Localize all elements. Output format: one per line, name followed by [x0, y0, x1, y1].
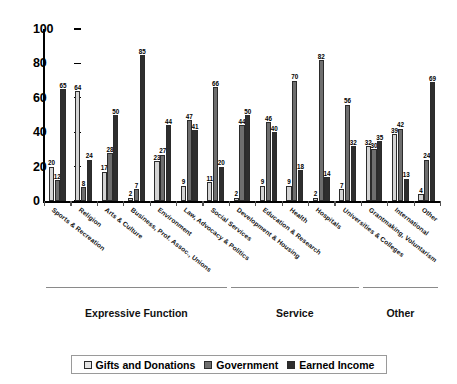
bar: 2: [313, 198, 318, 201]
bar-group: 24450: [234, 29, 251, 201]
bar: 50: [245, 115, 250, 201]
bar-chart: 020406080100 201265648241728502785232744…: [0, 0, 457, 384]
bar: 65: [60, 89, 65, 201]
light-gray-swatch-icon: [84, 361, 92, 369]
bar-value-label: 42: [397, 122, 404, 128]
bar-value-label: 41: [191, 124, 198, 130]
bar-value-label: 82: [318, 54, 325, 60]
bar: 85: [140, 55, 145, 201]
bar-value-label: 2: [314, 191, 318, 197]
bar-value-label: 20: [48, 160, 55, 166]
bar: 82: [319, 60, 324, 201]
legend-item-earned-income: Earned Income: [287, 359, 374, 371]
bar: 70: [292, 81, 297, 201]
bar-group: 94640: [260, 29, 277, 201]
bar-value-label: 8: [82, 181, 86, 187]
bar: 11: [207, 182, 212, 201]
bar-group: 394213: [392, 29, 409, 201]
legend-label: Government: [216, 359, 278, 371]
bar-value-label: 64: [74, 85, 81, 91]
bar-value-label: 40: [271, 126, 278, 132]
bar: 24: [424, 160, 429, 201]
bar-value-label: 7: [340, 183, 344, 189]
bar: 2: [234, 198, 239, 201]
bar-value-label: 66: [212, 81, 219, 87]
x-axis-category-label: Other: [420, 206, 439, 223]
bar-group: 172850: [102, 29, 119, 201]
bar-group: 75632: [339, 29, 356, 201]
legend-item-gifts-and-donations: Gifts and Donations: [84, 359, 196, 371]
bar: 14: [324, 177, 329, 201]
legend-label: Gifts and Donations: [96, 359, 196, 371]
x-axis-category-label: Health: [288, 206, 309, 224]
legend-label: Earned Income: [299, 359, 374, 371]
bar-value-label: 47: [186, 114, 193, 120]
bar: 20: [219, 167, 224, 201]
bar: 13: [404, 179, 409, 201]
bar: 50: [113, 115, 118, 201]
bar: 20: [49, 167, 54, 201]
bar-group: 201265: [49, 29, 66, 201]
bar: 28: [107, 153, 112, 201]
bar: 44: [166, 125, 171, 201]
bar: 4: [418, 194, 423, 201]
chart-legend: Gifts and Donations Government Earned In…: [71, 355, 387, 374]
bar-value-label: 46: [265, 116, 272, 122]
bar: 9: [286, 186, 291, 201]
bar-group: 42469: [418, 29, 435, 201]
x-axis-line: [43, 201, 441, 203]
bar: 9: [181, 186, 186, 201]
bar-value-label: 2: [129, 191, 133, 197]
bar-value-label: 9: [287, 179, 291, 185]
bar-value-label: 35: [376, 135, 383, 141]
bar-value-label: 32: [350, 140, 357, 146]
bar-group: 2785: [128, 29, 145, 201]
bar: 7: [339, 189, 344, 201]
function-group-underline: [363, 287, 438, 288]
bar-group: 94741: [181, 29, 198, 201]
bar-value-label: 14: [323, 171, 330, 177]
bar: 46: [266, 122, 271, 201]
medium-gray-swatch-icon: [204, 361, 212, 369]
dark-gray-swatch-icon: [287, 361, 295, 369]
x-axis-category-label: Hospitals: [315, 206, 343, 230]
bar-value-label: 50: [112, 109, 119, 115]
bar-value-label: 69: [429, 76, 436, 82]
plot-area: 2012656482417285027852327449474111662024…: [44, 29, 440, 201]
bar: 8: [81, 187, 86, 201]
bar-group: 232744: [154, 29, 171, 201]
bar-group: 116620: [207, 29, 224, 201]
bar: 35: [377, 141, 382, 201]
bar: 30: [371, 149, 376, 201]
bar: 56: [345, 105, 350, 201]
bar: 24: [87, 160, 92, 201]
bar: 27: [160, 155, 165, 201]
bar-value-label: 70: [291, 74, 298, 80]
bar-value-label: 24: [86, 153, 93, 159]
bar-group: 323035: [366, 29, 383, 201]
bar-value-label: 85: [139, 49, 146, 55]
bar: 17: [102, 172, 107, 201]
bar-value-label: 18: [297, 164, 304, 170]
bar: 44: [239, 125, 244, 201]
bar-value-label: 20: [218, 160, 225, 166]
x-axis-tick: [440, 201, 441, 206]
bar-value-label: 13: [403, 172, 410, 178]
bar-value-label: 2: [234, 191, 238, 197]
bar: 23: [154, 161, 159, 201]
x-axis-labels: Sports & RecreationReligionArts & Cultur…: [44, 206, 440, 296]
bar: 12: [55, 180, 60, 201]
bar-group: 64824: [75, 29, 92, 201]
x-axis-category-label: Religion: [77, 206, 102, 228]
function-group-label: Expressive Function: [85, 307, 188, 319]
bar: 9: [260, 186, 265, 201]
bar: 7: [134, 189, 139, 201]
bar: 40: [272, 132, 277, 201]
bar-value-label: 9: [261, 179, 265, 185]
bar: 66: [213, 87, 218, 201]
function-group-label: Service: [276, 307, 313, 319]
bar-value-label: 7: [135, 183, 139, 189]
bar: 2: [128, 198, 133, 201]
bar: 18: [298, 170, 303, 201]
legend-item-government: Government: [204, 359, 278, 371]
